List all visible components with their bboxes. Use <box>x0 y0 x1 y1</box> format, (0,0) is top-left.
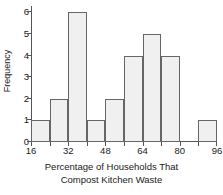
histogram-bar <box>68 12 87 142</box>
y-axis-tick <box>27 33 31 34</box>
y-axis-title: Frequency <box>0 0 14 142</box>
y-axis-title-text: Frequency <box>2 50 12 93</box>
histogram-bar <box>50 99 69 142</box>
histogram-bar <box>31 120 50 142</box>
x-axis-title-line: Compost Kitchen Waste <box>0 173 223 186</box>
x-axis-tick-label: 64 <box>128 145 158 156</box>
histogram-bar <box>161 56 180 142</box>
y-axis-tick <box>27 76 31 77</box>
histogram-bar <box>198 120 217 142</box>
y-axis-tick <box>27 119 31 120</box>
histogram-bar <box>105 99 124 142</box>
histogram-bar <box>124 56 143 142</box>
x-axis-title: Percentage of Households ThatCompost Kit… <box>0 160 223 186</box>
y-axis-tick <box>27 55 31 56</box>
histogram-figure: Frequency 0123456 163248648096 Percentag… <box>0 0 223 195</box>
y-axis-tick <box>27 98 31 99</box>
plot-area <box>31 6 217 142</box>
x-axis-tick-label: 80 <box>165 145 195 156</box>
histogram-bar <box>143 34 162 142</box>
x-axis-tick-label: 32 <box>53 145 83 156</box>
y-axis-tick <box>27 11 31 12</box>
plot-inner <box>31 6 217 142</box>
histogram-bar <box>87 120 106 142</box>
x-axis-tick-label: 16 <box>16 145 46 156</box>
x-axis-tick-labels: 163248648096 <box>31 145 217 159</box>
x-axis-title-line: Percentage of Households That <box>0 160 223 173</box>
x-axis-tick-label: 96 <box>202 145 223 156</box>
y-axis-tick-labels: 0123456 <box>14 0 29 145</box>
x-axis-tick-label: 48 <box>90 145 120 156</box>
